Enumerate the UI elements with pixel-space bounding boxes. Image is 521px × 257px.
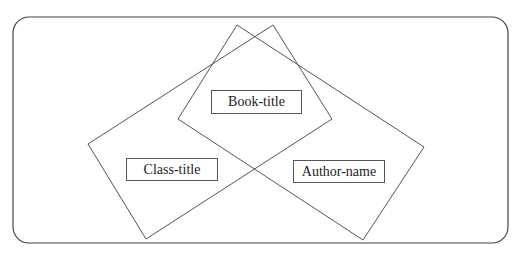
outer-boundary (13, 17, 508, 243)
class-title-label: Class-title (126, 158, 218, 181)
diagram-canvas (0, 0, 521, 257)
class-title-set (88, 25, 332, 239)
author-name-label: Author-name (293, 160, 385, 183)
book-title-label: Book-title (211, 90, 302, 114)
author-name-set (178, 25, 424, 240)
